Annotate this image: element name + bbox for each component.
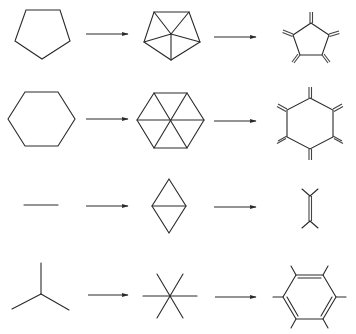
three-spoke-star: [12, 263, 69, 310]
cyclopentane-pentaone: [283, 12, 340, 63]
row-pentagon: [15, 10, 340, 63]
six-spoke-star: [143, 274, 197, 318]
row-line: [24, 179, 318, 233]
hexagon-shape: [8, 92, 75, 146]
triangulated-hexagon: [137, 93, 204, 148]
triangulated-pentagon: [144, 12, 200, 60]
diagram-canvas: [0, 0, 356, 334]
row-tripod: [12, 263, 346, 328]
ethylene: [302, 189, 318, 228]
pentagon-shape: [15, 10, 70, 59]
two-triangle-rhombus: [152, 179, 186, 233]
row-hexagon: [8, 87, 343, 160]
benzene: [273, 266, 346, 328]
diagram-svg: [0, 0, 356, 334]
cyclohexane-hexaone: [277, 87, 343, 160]
